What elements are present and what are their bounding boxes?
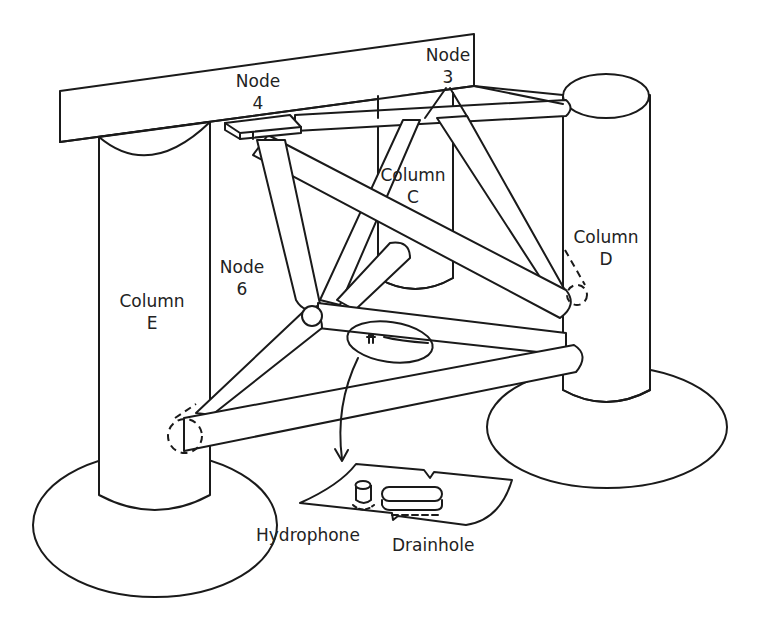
label-hydrophone: Hydrophone xyxy=(256,524,360,546)
label-column-d: Column D xyxy=(568,226,644,270)
label-node-3: Node 3 xyxy=(418,44,478,88)
label-column-c: Column C xyxy=(378,164,448,208)
node-6-joint xyxy=(302,306,322,326)
label-column-e: Column E xyxy=(112,290,192,334)
platform-diagram: Node 4 Node 3 Node 6 Column C Column D C… xyxy=(0,0,761,617)
label-node-6: Node 6 xyxy=(212,256,272,300)
label-drainhole: Drainhole xyxy=(392,534,474,556)
brace-node6-to-d xyxy=(318,303,566,355)
drainhole-shape xyxy=(382,487,442,515)
label-node-4: Node 4 xyxy=(228,70,288,114)
detail-inset xyxy=(300,464,512,525)
